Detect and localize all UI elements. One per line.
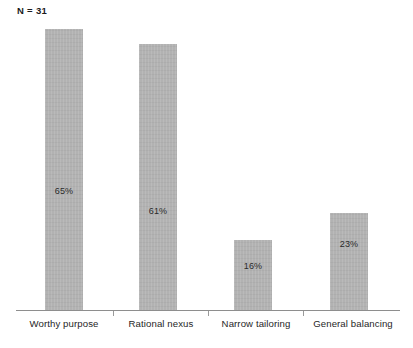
bar-value-narrow-tailoring: 16% bbox=[234, 261, 272, 271]
bar-value-worthy-purpose: 65% bbox=[45, 186, 83, 196]
category-label-worthy-purpose: Worthy purpose bbox=[14, 318, 114, 329]
bar-narrow-tailoring bbox=[234, 240, 272, 311]
bar-value-rational-nexus: 61% bbox=[139, 206, 177, 216]
bar-worthy-purpose bbox=[45, 29, 83, 311]
bar-value-general-balancing: 23% bbox=[330, 239, 368, 249]
category-label-narrow-tailoring: Narrow tailoring bbox=[208, 318, 304, 329]
bar-chart: N = 31 65% 61% 16% 23% Worthy purpose Ra… bbox=[0, 0, 413, 348]
x-axis-tick-1 bbox=[113, 311, 114, 316]
bar-rational-nexus bbox=[139, 44, 177, 311]
bar-general-balancing bbox=[330, 213, 368, 311]
category-label-general-balancing: General balancing bbox=[303, 318, 403, 329]
x-axis-tick-3 bbox=[303, 311, 304, 316]
x-axis-tick-2 bbox=[208, 311, 209, 316]
category-label-rational-nexus: Rational nexus bbox=[113, 318, 209, 329]
plot-area: 65% 61% 16% 23% bbox=[0, 0, 413, 311]
